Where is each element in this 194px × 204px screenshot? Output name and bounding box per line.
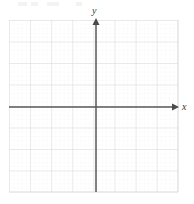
grid-canvas bbox=[0, 0, 194, 204]
scan-artifact bbox=[76, 2, 82, 6]
grid-major-lines bbox=[9, 20, 178, 192]
scan-artifact bbox=[18, 2, 27, 6]
x-axis-label: x bbox=[182, 102, 186, 112]
y-axis-label: y bbox=[92, 6, 96, 16]
scan-artifact bbox=[31, 2, 38, 6]
coordinate-grid-figure: y x bbox=[0, 0, 194, 204]
scan-artifact bbox=[47, 2, 59, 6]
